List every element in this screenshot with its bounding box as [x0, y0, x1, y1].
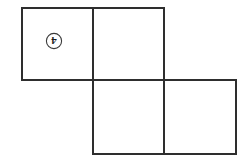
figure-canvas: 4: [0, 0, 246, 165]
bottom-left-square: [93, 80, 164, 154]
top-right-square: [93, 8, 164, 80]
bottom-right-square: [164, 80, 236, 154]
square-net-diagram: 4: [0, 0, 246, 165]
top-left-square: [22, 8, 93, 80]
